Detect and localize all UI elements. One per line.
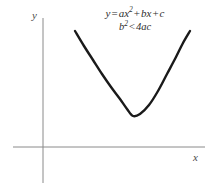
y-axis-label: y <box>32 10 37 21</box>
discriminant-rhs: 4ac <box>136 21 151 32</box>
equation-term2: bx <box>141 7 151 19</box>
axes-group <box>13 18 205 183</box>
equation-line-discriminant: b2<4ac <box>62 20 208 33</box>
parabola-figure: y x y=ax2+bx+c b2<4ac <box>0 0 215 193</box>
equation-line-quadratic: y=ax2+bx+c <box>62 7 208 20</box>
discriminant-relation-sign: < <box>128 21 136 32</box>
curve-group <box>75 31 190 116</box>
equation-plus-sign-1: + <box>133 7 141 19</box>
equation-equals-sign: = <box>110 7 118 19</box>
parabola-curve <box>75 31 190 116</box>
equation-annotation: y=ax2+bx+c b2<4ac <box>62 7 208 33</box>
equation-term1-coefficient: ax <box>119 7 129 19</box>
equation-term3: c <box>160 7 165 19</box>
x-axis-label: x <box>193 152 198 163</box>
equation-plus-sign-2: + <box>151 7 159 19</box>
